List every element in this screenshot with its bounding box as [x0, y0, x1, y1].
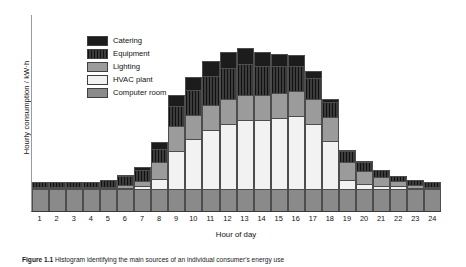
bar-segment-hvac-plant: [305, 124, 322, 191]
bar-segment-hvac-plant: [220, 124, 237, 191]
bar-segment-catering: [220, 52, 237, 70]
bar-segment-lighting: [151, 162, 168, 180]
x-tick-label: 19: [338, 214, 355, 223]
bar-segment-hvac-plant: [185, 139, 202, 190]
x-tick-label: 20: [355, 214, 372, 223]
legend: CateringEquipmentLightingHVAC plantCompu…: [87, 36, 166, 98]
bar-segment-equipment: [254, 66, 271, 95]
x-tick-label: 22: [390, 214, 407, 223]
bar-column[interactable]: [202, 15, 219, 211]
bar-column[interactable]: [66, 15, 83, 211]
bar-segment-lighting: [322, 117, 339, 142]
bar-segment-lighting: [185, 115, 202, 140]
bar-segment-lighting: [271, 93, 288, 118]
bar-segment-catering: [271, 54, 288, 68]
bar-column[interactable]: [288, 15, 305, 211]
bar-segment-equipment: [271, 66, 288, 93]
bar-segment-computer-room: [185, 189, 202, 211]
bar-column[interactable]: [424, 15, 441, 211]
bar-segment-hvac-plant: [168, 151, 185, 190]
bar-segment-computer-room: [237, 189, 254, 211]
bar-segment-computer-room: [220, 189, 237, 211]
x-tick-label: 17: [304, 214, 321, 223]
bar-segment-hvac-plant: [237, 120, 254, 191]
x-tick-label: 5: [99, 214, 116, 223]
bar-segment-lighting: [168, 126, 185, 151]
bar-segment-equipment: [220, 68, 237, 99]
x-tick-label: 14: [253, 214, 270, 223]
bar-segment-computer-room: [339, 189, 356, 211]
figure-caption: Figure 1.1 Histogram identifying the mai…: [22, 256, 446, 264]
legend-item: Computer room: [87, 88, 166, 98]
bar-segment-computer-room: [390, 189, 407, 211]
bar-segment-computer-room: [373, 189, 390, 211]
bar-column[interactable]: [407, 15, 424, 211]
legend-swatch-hvac-plant: [87, 75, 108, 85]
bar-segment-computer-room: [151, 189, 168, 211]
x-tick-label: 10: [185, 214, 202, 223]
bar-segment-computer-room: [356, 189, 373, 211]
bar-segment-equipment: [185, 90, 202, 115]
bar-column[interactable]: [220, 15, 237, 211]
bar-segment-hvac-plant: [271, 118, 288, 191]
bar-column[interactable]: [322, 15, 339, 211]
bar-segment-computer-room: [168, 189, 185, 211]
legend-label: Equipment: [113, 49, 150, 59]
bar-segment-hvac-plant: [202, 130, 219, 191]
bar-segment-catering: [185, 77, 202, 91]
bar-column[interactable]: [390, 15, 407, 211]
bar-segment-hvac-plant: [322, 141, 339, 190]
bar-segment-computer-room: [305, 189, 322, 211]
plot-area: CateringEquipmentLightingHVAC plantCompu…: [31, 15, 441, 212]
legend-label: Lighting: [113, 62, 140, 72]
legend-label: Computer room: [113, 88, 166, 98]
bar-column[interactable]: [356, 15, 373, 211]
bar-segment-computer-room: [322, 189, 339, 211]
x-tick-label: 9: [168, 214, 185, 223]
bar-column[interactable]: [237, 15, 254, 211]
x-tick-label: 24: [424, 214, 441, 223]
bar-column[interactable]: [32, 15, 49, 211]
bar-segment-equipment: [168, 106, 185, 128]
bar-segment-lighting: [305, 99, 322, 124]
bar-column[interactable]: [185, 15, 202, 211]
bar-segment-lighting: [202, 105, 219, 130]
bar-column[interactable]: [373, 15, 390, 211]
legend-swatch-equipment: [87, 49, 108, 59]
bar-segment-catering: [237, 48, 254, 66]
bar-segment-computer-room: [32, 189, 49, 211]
bar-segment-equipment: [202, 76, 219, 105]
bar-segment-lighting: [288, 91, 305, 116]
x-tick-label: 3: [65, 214, 82, 223]
legend-swatch-catering: [87, 36, 108, 46]
legend-swatch-lighting: [87, 62, 108, 72]
bar-segment-equipment: [322, 102, 339, 118]
x-tick-label: 15: [270, 214, 287, 223]
bar-segment-computer-room: [288, 189, 305, 211]
bar-column[interactable]: [339, 15, 356, 211]
bar-segment-computer-room: [271, 189, 288, 211]
legend-label: HVAC plant: [113, 75, 153, 85]
bar-segment-computer-room: [134, 189, 151, 211]
bar-segment-computer-room: [83, 189, 100, 211]
x-tick-label: 1: [31, 214, 48, 223]
bar-segment-computer-room: [424, 189, 441, 211]
bar-column[interactable]: [49, 15, 66, 211]
bar-column[interactable]: [254, 15, 271, 211]
x-tick-label: 4: [82, 214, 99, 223]
bar-segment-catering: [254, 52, 271, 68]
figure-container: Hourly consumption / kW·h CateringEquipm…: [0, 0, 466, 267]
bar-segment-lighting: [254, 95, 271, 120]
bar-segment-equipment: [151, 149, 168, 163]
x-tick-label: 8: [151, 214, 168, 223]
bar-segment-equipment: [305, 78, 322, 100]
bar-column[interactable]: [305, 15, 322, 211]
bar-segment-hvac-plant: [288, 116, 305, 190]
bar-segment-computer-room: [117, 189, 134, 211]
bar-segment-equipment: [237, 64, 254, 95]
bar-column[interactable]: [271, 15, 288, 211]
y-axis-label: Hourly consumption / kW·h: [22, 18, 31, 198]
x-tick-label: 13: [236, 214, 253, 223]
bar-column[interactable]: [168, 15, 185, 211]
x-axis-label: Hour of day: [31, 230, 441, 239]
